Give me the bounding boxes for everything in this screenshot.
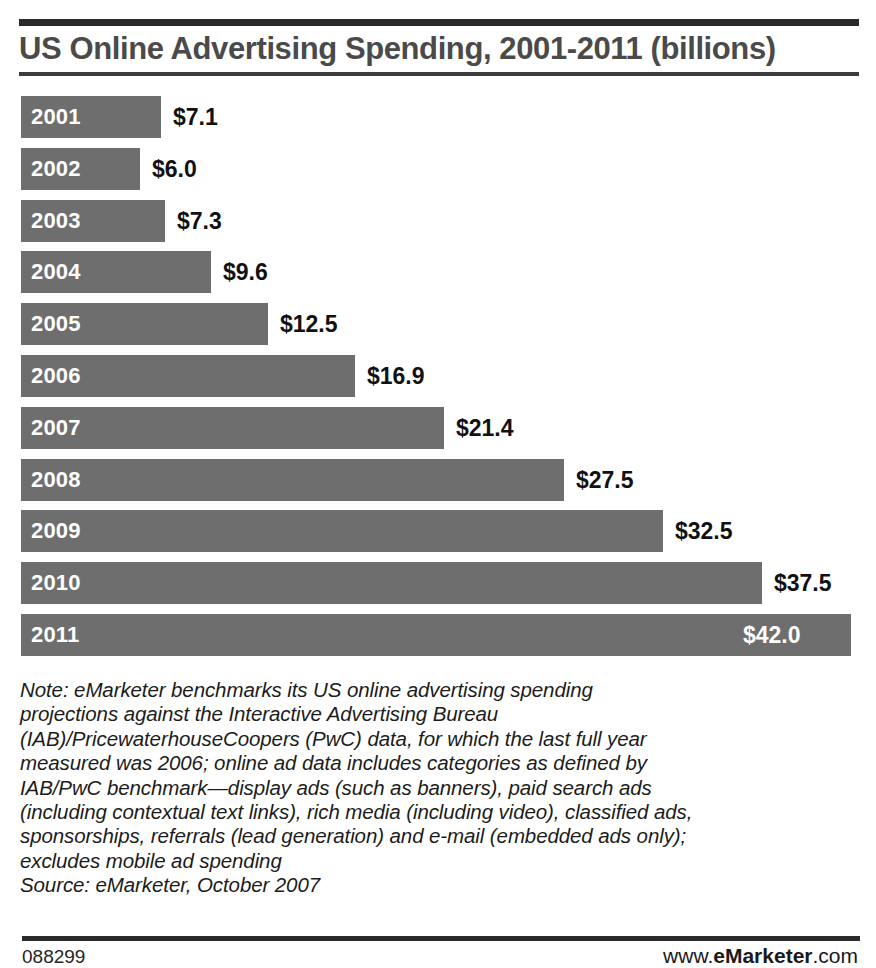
bar-category-label-2007: 2007 <box>31 407 81 449</box>
bar-row: 2004$9.6 <box>0 251 876 293</box>
bar-row: 2003$7.3 <box>0 200 876 242</box>
bar-2010 <box>21 562 762 604</box>
bar-2007 <box>21 407 444 449</box>
chart-page: US Online Advertising Spending, 2001-201… <box>0 0 876 968</box>
bar-row: 2009$32.5 <box>0 510 876 552</box>
footer-rule <box>22 936 860 941</box>
footer-brand-prefix: www. <box>663 944 713 967</box>
bar-2009 <box>21 510 663 552</box>
bar-value-label-2008: $27.5 <box>576 459 634 501</box>
bar-category-label-2001: 2001 <box>31 96 81 138</box>
bar-value-label-2009: $32.5 <box>675 510 733 552</box>
note-line: IAB/PwC benchmark—display ads (such as b… <box>20 776 868 800</box>
bar-row: 2006$16.9 <box>0 355 876 397</box>
bar-value-label-2004: $9.6 <box>223 251 268 293</box>
page-title: US Online Advertising Spending, 2001-201… <box>19 29 864 69</box>
bar-category-label-2002: 2002 <box>31 148 81 190</box>
chart-note: Note: eMarketer benchmarks its US online… <box>20 678 868 898</box>
bar-value-label-2010: $37.5 <box>774 562 832 604</box>
bar-value-label-2011: $42.0 <box>743 614 801 656</box>
bar-category-label-2006: 2006 <box>31 355 81 397</box>
bar-value-label-2002: $6.0 <box>152 148 197 190</box>
bar-category-label-2009: 2009 <box>31 510 81 552</box>
bar-chart-plot-area: 2001$7.12002$6.02003$7.32004$9.62005$12.… <box>0 90 876 670</box>
bar-category-label-2004: 2004 <box>31 251 81 293</box>
bar-category-label-2010: 2010 <box>31 562 81 604</box>
bar-2011 <box>21 614 851 656</box>
bar-value-label-2001: $7.1 <box>173 96 218 138</box>
bar-value-label-2006: $16.9 <box>367 355 425 397</box>
note-line: excludes mobile ad spending <box>20 849 868 873</box>
note-line: (including contextual text links), rich … <box>20 800 868 824</box>
note-line: (IAB)/PricewaterhouseCoopers (PwC) data,… <box>20 727 868 751</box>
footer-brand: www.eMarketer.com <box>663 944 858 968</box>
bar-2008 <box>21 459 564 501</box>
footer-brand-suffix: .com <box>812 944 858 967</box>
bar-row: 2005$12.5 <box>0 303 876 345</box>
bar-category-label-2008: 2008 <box>31 459 81 501</box>
note-line: measured was 2006; online ad data includ… <box>20 751 868 775</box>
bar-value-label-2007: $21.4 <box>456 407 514 449</box>
bar-row: 2001$7.1 <box>0 96 876 138</box>
note-line: sponsorships, referrals (lead generation… <box>20 824 868 848</box>
bar-category-label-2003: 2003 <box>31 200 81 242</box>
note-line: projections against the Interactive Adve… <box>20 702 868 726</box>
bar-value-label-2003: $7.3 <box>177 200 222 242</box>
bar-row: 2008$27.5 <box>0 459 876 501</box>
title-bottom-rule <box>19 72 859 76</box>
bar-row: 2011$42.0 <box>0 614 876 656</box>
bar-value-label-2005: $12.5 <box>280 303 338 345</box>
bar-category-label-2011: 2011 <box>31 614 80 656</box>
footer-brand-name: eMarketer <box>713 944 812 967</box>
title-top-rule <box>19 19 859 26</box>
footer-code: 088299 <box>22 945 85 968</box>
note-line: Source: eMarketer, October 2007 <box>20 873 868 897</box>
bar-row: 2010$37.5 <box>0 562 876 604</box>
note-line: Note: eMarketer benchmarks its US online… <box>20 678 868 702</box>
bar-row: 2002$6.0 <box>0 148 876 190</box>
bar-category-label-2005: 2005 <box>31 303 81 345</box>
bar-row: 2007$21.4 <box>0 407 876 449</box>
